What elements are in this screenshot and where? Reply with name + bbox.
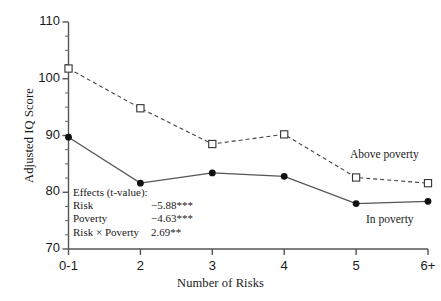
effects-annotation: Effects (t-value): Risk−5.88*** Poverty−… xyxy=(73,186,193,239)
effects-row-label: Risk xyxy=(73,199,151,212)
effects-row-value: −4.63*** xyxy=(151,212,193,225)
effects-heading: Effects (t-value): xyxy=(73,186,193,199)
x-tick-label: 6+ xyxy=(408,258,441,273)
chart-figure: Adjusted IQ Score Number of Risks 708090… xyxy=(0,0,441,301)
effects-row-value: −5.88*** xyxy=(151,199,193,212)
y-tick-label: 70 xyxy=(26,240,60,255)
x-tick-label: 5 xyxy=(336,258,376,273)
effects-row-label: Risk × Poverty xyxy=(73,226,151,239)
series-label-in-poverty: In poverty xyxy=(366,213,414,225)
effects-row: Poverty−4.63*** xyxy=(73,212,193,225)
effects-row-value: 2.69** xyxy=(151,226,181,239)
effects-row: Risk−5.88*** xyxy=(73,199,193,212)
y-tick-label: 90 xyxy=(26,127,60,142)
x-ticks xyxy=(69,249,429,255)
series-markers-above-poverty xyxy=(65,65,432,187)
x-tick-label: 0-1 xyxy=(49,258,89,273)
series-label-above-poverty: Above poverty xyxy=(350,148,419,160)
y-tick-label: 80 xyxy=(26,183,60,198)
effects-row-label: Poverty xyxy=(73,212,151,225)
x-axis-label: Number of Risks xyxy=(0,276,441,291)
x-tick-label: 2 xyxy=(120,258,160,273)
y-tick-label: 110 xyxy=(26,13,60,28)
y-tick-label: 100 xyxy=(26,70,60,85)
series-line-above-poverty xyxy=(69,69,429,184)
x-tick-label: 3 xyxy=(192,258,232,273)
x-tick-label: 4 xyxy=(264,258,304,273)
effects-row: Risk × Poverty2.69** xyxy=(73,226,193,239)
